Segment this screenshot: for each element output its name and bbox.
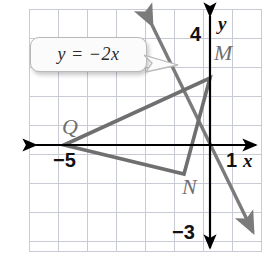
y-tick-label-4: 4: [190, 24, 201, 44]
x-tick-label-1: 1: [226, 150, 237, 170]
point-label-Q: Q: [62, 116, 78, 138]
y-tick-label-minus3: −3: [172, 222, 195, 242]
point-label-M: M: [214, 42, 232, 64]
point-label-N: N: [182, 176, 197, 198]
y-axis-label: y: [218, 14, 226, 33]
x-axis-label: x: [243, 151, 253, 170]
callout-tail-icon: [144, 53, 180, 75]
x-tick-label-minus5: −5: [53, 150, 76, 170]
equation-callout: y = −2x: [30, 37, 147, 72]
coordinate-graph-figure: y = −2x M N Q 4 −5 1 −3 y x: [0, 0, 270, 264]
equation-callout-label: y = −2x: [58, 44, 120, 65]
